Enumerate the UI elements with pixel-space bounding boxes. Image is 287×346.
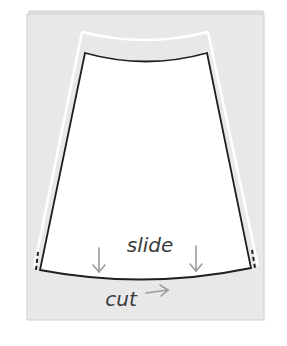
slide-label: slide xyxy=(127,233,174,257)
cut-label: cut xyxy=(105,287,138,311)
skirt-pattern-diagram: slide cut xyxy=(0,0,287,346)
